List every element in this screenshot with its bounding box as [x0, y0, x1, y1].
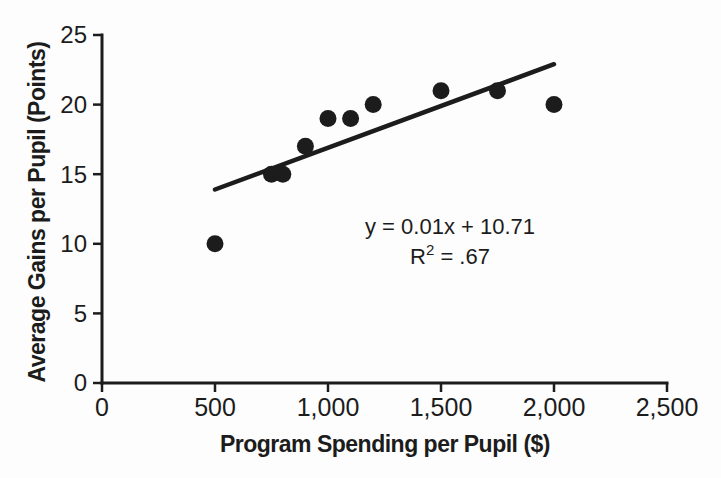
y-tick-label: 25: [60, 21, 87, 48]
x-tick-label: 1,000: [297, 393, 360, 421]
y-tick-label: 15: [60, 161, 87, 188]
y-axis-title: Average Gains per Pupil (Points): [24, 41, 50, 382]
x-axis-title: Program Spending per Pupil ($): [220, 431, 550, 457]
y-tick-label: 10: [60, 230, 87, 257]
data-point: [489, 82, 506, 99]
scatter-plot: 051015202505001,0001,5002,0002,500 y = 0…: [0, 0, 721, 478]
data-point: [297, 138, 314, 155]
y-tick-label: 20: [60, 91, 87, 118]
y-tick-label: 0: [74, 369, 87, 396]
data-point: [320, 110, 337, 127]
data-point: [274, 166, 291, 183]
data-point: [433, 82, 450, 99]
chart-figure: 051015202505001,0001,5002,0002,500 y = 0…: [0, 0, 721, 478]
data-point: [546, 96, 563, 113]
data-point: [342, 110, 359, 127]
x-tick-label: 500: [194, 393, 236, 421]
r-squared-label: R2 = .67: [410, 241, 490, 269]
x-tick-label: 1,500: [410, 393, 473, 421]
data-point: [365, 96, 382, 113]
regression-equation: y = 0.01x + 10.71: [365, 214, 535, 239]
data-point: [207, 235, 224, 252]
regression-annotation: y = 0.01x + 10.71R2 = .67: [365, 214, 535, 269]
x-tick-label: 2,500: [636, 393, 699, 421]
axes: [102, 35, 667, 383]
y-tick-label: 5: [74, 300, 87, 327]
x-tick-label: 2,000: [523, 393, 586, 421]
x-tick-label: 0: [95, 393, 109, 421]
